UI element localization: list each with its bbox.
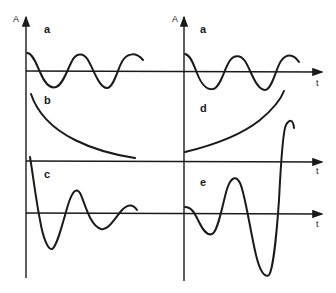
panel-label-e: e xyxy=(200,176,206,188)
right-y-axis-label: A xyxy=(172,14,178,24)
curve-d xyxy=(185,91,284,152)
left-y-axis-label: A xyxy=(13,14,19,24)
top-t-axis xyxy=(26,71,322,72)
middle-t-label: t xyxy=(316,166,319,176)
curve-e xyxy=(185,121,294,276)
panel-label-d: d xyxy=(200,102,207,114)
panel-label-a-left: a xyxy=(44,23,51,35)
panel-label-b: b xyxy=(44,94,51,106)
top-t-label: t xyxy=(316,78,319,88)
panel-label-c: c xyxy=(44,168,50,180)
middle-t-axis xyxy=(26,161,322,162)
oscillation-types-diagram: A A t t t a b c a d e xyxy=(0,0,336,293)
bottom-t-label: t xyxy=(316,219,319,229)
panel-label-a-right: a xyxy=(200,23,207,35)
